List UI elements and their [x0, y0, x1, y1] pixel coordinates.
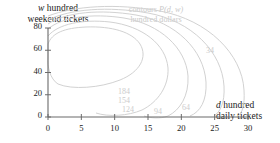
- contour-label-94: 94: [154, 107, 162, 116]
- x-tick-label: 15: [136, 124, 160, 134]
- y-tick-label: 40: [14, 67, 42, 77]
- plot-canvas: [0, 0, 280, 143]
- y-tick-label: 0: [14, 111, 42, 121]
- contour-line-64: [48, 9, 224, 116]
- contour-label-154: 154: [118, 96, 130, 105]
- contour-plot-figure: w hundred weekend tickets contours P(d, …: [0, 0, 280, 143]
- x-tick-label: 10: [103, 124, 127, 134]
- contour-line-154: [48, 21, 168, 115]
- y-tick-label: 20: [14, 89, 42, 99]
- y-tick-label: 80: [14, 22, 42, 32]
- x-tick-label: 30: [236, 124, 260, 134]
- contour-line-184: [48, 27, 143, 88]
- contour-label-184: 184: [118, 87, 130, 96]
- x-tick-label: 0: [36, 124, 60, 134]
- x-tick-label: 20: [169, 124, 193, 134]
- contour-label-64: 64: [182, 103, 190, 112]
- contour-label-124: 124: [122, 105, 134, 114]
- contour-lines: [48, 6, 244, 117]
- x-tick-label: 25: [203, 124, 227, 134]
- contour-label-34: 34: [206, 46, 214, 55]
- y-tick-label: 60: [14, 44, 42, 54]
- x-tick-label: 5: [69, 124, 93, 134]
